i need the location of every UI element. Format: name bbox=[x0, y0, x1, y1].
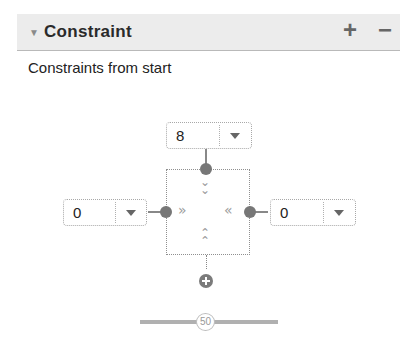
panel-title: Constraint bbox=[44, 22, 132, 42]
dropdown-divider bbox=[323, 202, 324, 223]
chevron-down-icon[interactable] bbox=[230, 133, 240, 139]
add-bottom-constraint-icon[interactable] bbox=[199, 274, 213, 288]
bottom-connector-dashed-line bbox=[206, 255, 207, 269]
collapse-triangle-icon[interactable]: ▼ bbox=[29, 27, 39, 38]
top-margin-value[interactable]: 8 bbox=[176, 127, 184, 144]
right-anchor-handle[interactable] bbox=[244, 206, 256, 218]
bias-slider-knob[interactable]: 50 bbox=[196, 313, 215, 331]
left-constraint-arrows-icon[interactable]: » bbox=[178, 202, 187, 218]
chevron-down-icon[interactable] bbox=[126, 210, 136, 216]
dropdown-divider bbox=[219, 125, 220, 146]
left-anchor-handle[interactable] bbox=[160, 206, 172, 218]
bottom-constraint-arrows-icon[interactable]: ⌃⌃ bbox=[200, 229, 210, 245]
top-margin-dropdown[interactable]: 8 bbox=[166, 122, 252, 149]
remove-constraint-button[interactable]: − bbox=[378, 18, 392, 42]
dropdown-divider bbox=[115, 202, 116, 223]
top-anchor-handle[interactable] bbox=[200, 163, 212, 175]
top-constraint-arrows-icon[interactable]: ⌄⌄ bbox=[200, 178, 210, 194]
chevron-down-icon[interactable] bbox=[334, 210, 344, 216]
left-margin-value[interactable]: 0 bbox=[73, 204, 81, 221]
right-margin-dropdown[interactable]: 0 bbox=[270, 199, 356, 226]
right-connector-line bbox=[254, 211, 268, 213]
right-margin-value[interactable]: 0 bbox=[280, 204, 288, 221]
constraints-subtitle: Constraints from start bbox=[28, 59, 171, 76]
add-constraint-button[interactable]: + bbox=[343, 18, 357, 42]
right-constraint-arrows-icon[interactable]: « bbox=[224, 202, 233, 218]
constraint-panel-header[interactable]: ▼ Constraint + − bbox=[17, 14, 400, 51]
left-margin-dropdown[interactable]: 0 bbox=[63, 199, 147, 226]
